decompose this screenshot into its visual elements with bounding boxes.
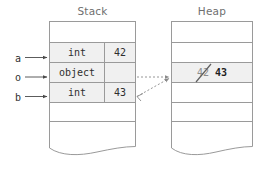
diagram-canvas: Stack Heap int 42 object int 43 [0, 0, 274, 175]
arrows-overlay [0, 0, 274, 175]
reference-arrow-b-to-heap [137, 79, 169, 102]
